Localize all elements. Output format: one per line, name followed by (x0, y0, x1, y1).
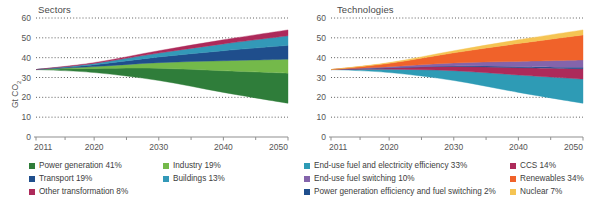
x-tick-label: 2020 (380, 142, 399, 152)
y-tick-label: 50 (22, 33, 32, 43)
y-tick-label: 10 (317, 112, 327, 122)
legend-swatch-icon (510, 176, 516, 182)
y-tick-label: 20 (22, 92, 32, 102)
legend-swatch-icon (304, 163, 310, 169)
legend-item[interactable]: Transport 19% (29, 173, 128, 184)
x-tick-label: 2011 (34, 142, 53, 152)
legend-swatch-icon (29, 176, 35, 182)
y-tick-label: 60 (317, 13, 327, 23)
x-tick-label: 2040 (509, 142, 528, 152)
legend-column: End-use fuel and electricity efficiency … (304, 160, 496, 199)
y-tick-label: 20 (317, 92, 327, 102)
x-tick-label: 2030 (444, 142, 463, 152)
legend-swatch-icon (510, 163, 516, 169)
legend-item[interactable]: CCS 14% (510, 160, 584, 171)
legend-label: CCS 14% (520, 160, 556, 171)
y-tick-label: 50 (317, 33, 327, 43)
legend-label: Power generation efficiency and fuel swi… (314, 186, 496, 197)
legend-label: Power generation 41% (39, 160, 122, 171)
legend-swatch-icon (304, 189, 310, 195)
y-tick-label: 0 (26, 132, 31, 142)
x-tick-label: 2050 (269, 142, 288, 152)
legend-swatch-icon (29, 189, 35, 195)
y-axis-label-sectors: Gt CO2 (10, 81, 22, 108)
legend-item[interactable]: Industry 19% (163, 160, 225, 171)
legend-swatch-icon (304, 176, 310, 182)
legend-label: End-use fuel switching 10% (314, 173, 415, 184)
y-tick-label: 30 (22, 73, 32, 83)
y-tick-label: 30 (317, 73, 327, 83)
legend-column: CCS 14%Renewables 34%Nuclear 7% (510, 160, 584, 199)
y-axis-label-subscript: 2 (16, 81, 22, 84)
legend-label: Industry 19% (173, 160, 221, 171)
legend-item[interactable]: End-use fuel switching 10% (304, 173, 496, 184)
legend-item[interactable]: Buildings 13% (163, 173, 225, 184)
legend-item[interactable]: Power generation efficiency and fuel swi… (304, 186, 496, 197)
x-tick-label: 2011 (329, 142, 348, 152)
panel-technologies: Technologies 010203040506020112020203020… (295, 0, 591, 200)
legend-column: Industry 19%Buildings 13% (163, 160, 225, 186)
legend-label: Transport 19% (39, 173, 92, 184)
figure-root: Sectors Gt CO2 0102030405060201120202030… (0, 0, 591, 200)
panel-sectors-title: Sectors (38, 4, 71, 15)
legend-swatch-icon (510, 189, 516, 195)
legend-swatch-icon (163, 163, 169, 169)
legend-label: Renewables 34% (520, 173, 584, 184)
legend-item[interactable]: Other transformation 8% (29, 186, 128, 197)
legend-item[interactable]: Renewables 34% (510, 173, 584, 184)
legend-item[interactable]: Power generation 41% (29, 160, 128, 171)
legend-label: Nuclear 7% (520, 186, 562, 197)
x-tick-label: 2040 (214, 142, 233, 152)
legend-swatch-icon (163, 176, 169, 182)
x-tick-label: 2020 (85, 142, 104, 152)
legend-item[interactable]: Nuclear 7% (510, 186, 584, 197)
area-series (36, 68, 288, 103)
y-axis-label-text: Gt CO (10, 84, 20, 108)
legend-item[interactable]: End-use fuel and electricity efficiency … (304, 160, 496, 171)
y-tick-label: 10 (22, 112, 32, 122)
x-tick-label: 2030 (149, 142, 168, 152)
panel-sectors: Sectors Gt CO2 0102030405060201120202030… (0, 0, 296, 200)
y-tick-label: 40 (317, 53, 327, 63)
y-tick-label: 40 (22, 53, 32, 63)
x-tick-label: 2050 (564, 142, 583, 152)
legend-swatch-icon (29, 163, 35, 169)
y-tick-label: 60 (22, 13, 32, 23)
legend-label: Other transformation 8% (39, 186, 128, 197)
legend-label: End-use fuel and electricity efficiency … (314, 160, 467, 171)
y-tick-label: 0 (321, 132, 326, 142)
legend-column: Power generation 41%Transport 19%Other t… (29, 160, 128, 199)
legend-label: Buildings 13% (173, 173, 225, 184)
panel-technologies-title: Technologies (337, 4, 394, 15)
